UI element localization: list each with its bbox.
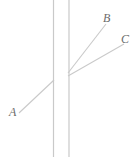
ray-to-c <box>68 44 124 76</box>
point-label-a: A <box>9 106 16 118</box>
geometry-figure: A B C <box>0 0 137 157</box>
geometry-canvas <box>0 0 137 157</box>
transversal-segment-from-a <box>19 80 54 113</box>
point-label-c: C <box>121 33 129 45</box>
point-label-b: B <box>103 12 110 24</box>
